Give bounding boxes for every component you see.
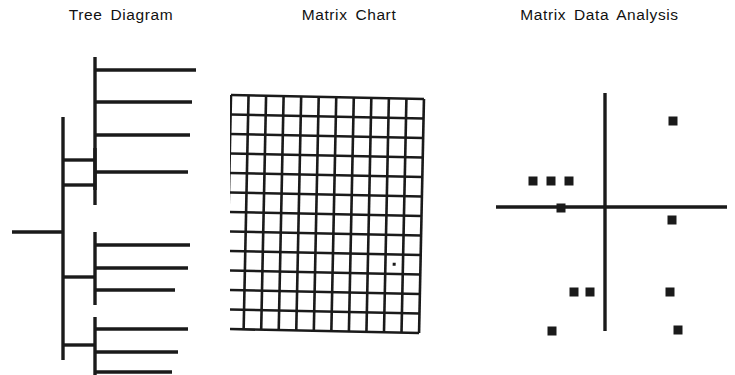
tree-diagram-panel: Tree Diagram [0,0,230,375]
matrix-grid-line-horizontal [230,231,421,235]
matrix-grid-line-horizontal [230,173,422,177]
matrix-grid-line-horizontal [230,192,422,196]
scatter-data-point [674,326,683,335]
tree-diagram-figure [0,0,230,375]
matrix-grid-line-horizontal [230,329,419,333]
matrix-grid-line-horizontal [231,95,424,99]
scatter-data-point [666,288,675,297]
scatter-data-point [548,327,557,336]
matrix-grid-line-horizontal [230,251,421,255]
matrix-grid-line-horizontal [231,114,424,118]
matrix-cell-mark [393,263,396,266]
matrix-grid-line-horizontal [230,309,419,313]
matrix-chart-panel: Matrix Chart [230,0,460,375]
matrix-chart-figure [230,0,460,375]
matrix-grid-line-horizontal [230,290,420,294]
matrix-grid-line-horizontal [230,134,423,138]
scatter-data-point [529,177,538,186]
scatter-data-point [565,177,574,186]
matrix-data-analysis-panel: Matrix Data Analysis [460,0,735,375]
scatter-data-point [547,177,556,186]
matrix-grid-line-horizontal [230,153,423,157]
scatter-data-point [669,117,678,126]
scatter-data-point [586,288,595,297]
scatter-data-point [557,204,566,213]
matrix-grid-line-horizontal [230,270,420,274]
matrix-grid-line-horizontal [230,212,422,216]
scatter-data-point [570,288,579,297]
scatter-data-point [668,216,677,225]
matrix-grid [230,95,424,333]
matrix-data-analysis-figure [460,0,735,375]
